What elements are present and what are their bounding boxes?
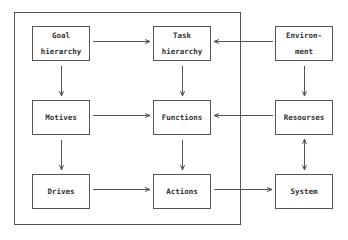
- node-goal-hierarchy: Goal hierarchy: [32, 26, 90, 61]
- node-label: Task hierarchy: [162, 28, 203, 60]
- node-resources: Resourses: [275, 100, 333, 135]
- node-label: System: [290, 184, 317, 200]
- node-drives: Drives: [32, 174, 90, 209]
- node-label: Environ- ment: [286, 28, 322, 60]
- node-label: Actions: [166, 184, 198, 200]
- node-label: Goal hierarchy: [41, 28, 82, 60]
- node-label: Functions: [162, 110, 203, 126]
- node-actions: Actions: [153, 174, 211, 209]
- node-functions: Functions: [153, 100, 211, 135]
- node-label: Motives: [45, 110, 77, 126]
- node-environment: Environ- ment: [275, 26, 333, 61]
- node-system: System: [275, 174, 333, 209]
- node-label: Drives: [47, 184, 74, 200]
- node-motives: Motives: [32, 100, 90, 135]
- node-label: Resourses: [284, 110, 325, 126]
- node-task-hierarchy: Task hierarchy: [153, 26, 211, 61]
